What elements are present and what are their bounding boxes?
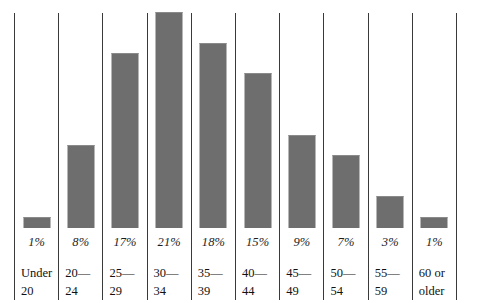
value-label-slot: 3% [369,228,412,256]
bar[interactable] [23,217,50,228]
bar-slot [148,13,191,228]
x-axis-category-label: 30—34 [154,266,179,298]
value-label-slot: 1% [413,228,456,256]
chart-column: 1%Under 20 [14,13,58,300]
x-axis-category-label: 25—29 [109,266,134,298]
bar-value-label: 1% [28,235,45,250]
chart-column: 3%55—59 [368,13,412,300]
x-axis-category-label: 20—24 [65,266,90,298]
bar-slot [15,13,58,228]
value-label-slot: 18% [192,228,235,256]
category-label-slot: 55—59 [369,256,412,300]
x-axis-category-label: Under 20 [21,266,52,298]
bar-value-label: 1% [426,235,443,250]
x-axis-category-label: 55—59 [375,266,400,298]
bar-value-label: 18% [202,235,225,250]
bar-value-label: 15% [246,235,269,250]
bar-slot [369,13,412,228]
bar-slot [103,13,146,228]
bar-slot [236,13,279,228]
chart-column: 17%25—29 [102,13,146,300]
bar[interactable] [244,73,271,228]
bar-value-label: 3% [382,235,399,250]
bar[interactable] [112,53,139,228]
chart-column: 9%45—49 [279,13,323,300]
value-label-slot: 15% [236,228,279,256]
chart-column: 21%30—34 [147,13,191,300]
bar-value-label: 17% [113,235,136,250]
category-label-slot: Under 20 [15,256,58,300]
bar-slot [280,13,323,228]
value-label-slot: 1% [15,228,58,256]
category-label-slot: 25—29 [103,256,146,300]
value-label-slot: 8% [59,228,102,256]
chart-plot-frame: 1%Under 208%20—2417%25—2921%30—3418%35—3… [14,13,457,300]
chart-column: 1%60 or older [412,13,457,300]
value-label-slot: 21% [148,228,191,256]
x-axis-category-label: 50—54 [330,266,355,298]
bar-slot [324,13,367,228]
bar[interactable] [200,43,227,228]
bar-slot [413,13,456,228]
chart-column: 15%40—44 [235,13,279,300]
bar[interactable] [67,145,94,228]
value-label-slot: 7% [324,228,367,256]
bar-slot [59,13,102,228]
bar[interactable] [377,196,404,228]
bar[interactable] [288,135,315,228]
bar-value-label: 8% [72,235,89,250]
bar-chart-figure: 1%Under 208%20—2417%25—2921%30—3418%35—3… [0,0,484,303]
x-axis-category-label: 45—49 [286,266,311,298]
category-label-slot: 60 or older [413,256,456,300]
bar-value-label: 7% [338,235,355,250]
chart-column: 7%50—54 [323,13,367,300]
value-label-slot: 17% [103,228,146,256]
chart-column: 18%35—39 [191,13,235,300]
bar-value-label: 9% [293,235,310,250]
bar-value-label: 21% [158,235,181,250]
category-label-slot: 40—44 [236,256,279,300]
x-axis-category-label: 40—44 [242,266,267,298]
x-axis-category-label: 35—39 [198,266,223,298]
bar[interactable] [421,217,448,228]
bar[interactable] [333,155,360,228]
bar[interactable] [156,12,183,228]
chart-column: 8%20—24 [58,13,102,300]
category-label-slot: 30—34 [148,256,191,300]
category-label-slot: 35—39 [192,256,235,300]
value-label-slot: 9% [280,228,323,256]
bar-slot [192,13,235,228]
x-axis-category-label: 60 or older [419,266,445,298]
category-label-slot: 45—49 [280,256,323,300]
category-label-slot: 50—54 [324,256,367,300]
category-label-slot: 20—24 [59,256,102,300]
